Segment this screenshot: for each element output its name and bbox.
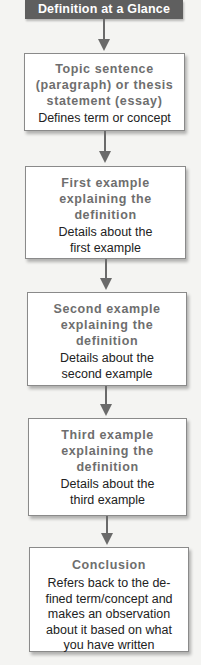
step-title: Second example explaining the definition xyxy=(28,301,186,349)
arrow-down-icon xyxy=(100,259,112,292)
diagram-title: Definition at a Glance xyxy=(25,0,183,19)
step-title: Topic sentence (paragraph) or thesis sta… xyxy=(25,61,184,109)
step-title: Conclusion xyxy=(30,557,188,573)
arrow-down-icon xyxy=(99,131,111,166)
step-description: Defines term or concept xyxy=(25,111,184,127)
step-description: Details about the second example xyxy=(28,351,186,382)
flow-step-conclusion: Conclusion Refers back to the de- fined … xyxy=(29,547,189,652)
arrow-down-icon xyxy=(98,19,110,53)
arrow-down-icon xyxy=(101,516,113,547)
flow-step-second-example: Second example explaining the definition… xyxy=(27,292,187,386)
step-description: Details about the first example xyxy=(26,225,185,256)
step-description: Details about the third example xyxy=(29,477,186,508)
step-title: First example explaining the definition xyxy=(26,175,185,223)
step-description: Refers back to the de- fined term/concep… xyxy=(30,576,188,654)
flow-step-third-example: Third example explaining the definition … xyxy=(28,418,187,516)
step-title: Third example explaining the definition xyxy=(29,427,186,475)
arrow-down-icon xyxy=(100,386,112,418)
flow-step-first-example: First example explaining the definition … xyxy=(25,166,186,259)
flow-step-topic-sentence: Topic sentence (paragraph) or thesis sta… xyxy=(24,53,185,131)
